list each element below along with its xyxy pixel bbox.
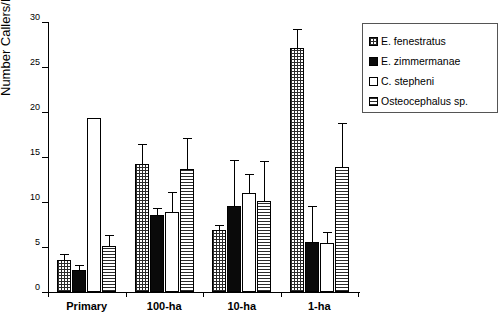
legend-swatch-icon	[369, 37, 378, 46]
error-bar-line	[312, 206, 313, 242]
legend-swatch-icon	[369, 97, 378, 106]
bar	[227, 206, 241, 292]
bar	[102, 246, 116, 292]
bar	[335, 167, 349, 292]
error-bar-cap	[168, 192, 177, 193]
error-bar-cap	[308, 206, 317, 207]
bar	[180, 169, 194, 292]
error-bar-cap	[105, 235, 114, 236]
y-tick-label: 0	[20, 283, 40, 292]
legend-swatch-icon	[369, 57, 378, 66]
bar	[212, 230, 226, 292]
y-tick-label: 25	[20, 58, 40, 67]
legend-item: C. stepheni	[369, 71, 497, 91]
x-tick-mark	[358, 292, 359, 297]
x-tick-mark	[203, 292, 204, 297]
legend-item: E. fenestratus	[369, 31, 497, 51]
legend-item-label: C. stepheni	[381, 76, 434, 87]
bar	[72, 270, 86, 293]
bar	[320, 243, 334, 292]
error-bar-line	[327, 232, 328, 244]
bar	[257, 201, 271, 292]
bar	[87, 118, 101, 292]
error-bar-cap	[75, 265, 84, 266]
legend-swatch-icon	[369, 77, 378, 86]
x-tick-label: 100-ha	[147, 300, 182, 312]
error-bar-line	[142, 144, 143, 164]
y-axis-title: Number Callers/Km	[0, 0, 13, 96]
bar	[165, 212, 179, 292]
bar	[135, 164, 149, 292]
error-bar-cap	[60, 254, 69, 255]
x-tick-label: Primary	[66, 300, 107, 312]
bar-series-container	[48, 22, 358, 292]
plot-area: 051015202530	[48, 22, 358, 292]
legend-item: E. zimmermanae	[369, 51, 497, 71]
x-tick-mark	[281, 292, 282, 297]
bar	[57, 260, 71, 292]
y-tick-label: 5	[20, 238, 40, 247]
chart-legend: E. fenestratusE. zimmermanaeC. stepheniO…	[362, 23, 498, 113]
error-bar-cap	[338, 123, 347, 124]
legend-item-label: E. fenestratus	[381, 36, 446, 47]
error-bar-line	[234, 160, 235, 206]
legend-item: Osteocephalus sp.	[369, 91, 497, 111]
error-bar-line	[297, 29, 298, 48]
x-tick-mark	[48, 292, 49, 297]
error-bar-cap	[245, 174, 254, 175]
error-bar-cap	[183, 138, 192, 139]
error-bar-line	[249, 174, 250, 193]
error-bar-cap	[153, 208, 162, 209]
x-tick-label: 10-ha	[227, 300, 256, 312]
y-tick-label: 20	[20, 103, 40, 112]
y-tick-label: 30	[20, 13, 40, 22]
error-bar-cap	[323, 232, 332, 233]
error-bar-line	[172, 192, 173, 212]
x-axis-line	[48, 292, 360, 293]
legend-item-label: E. zimmermanae	[381, 56, 460, 67]
x-tick-label: 1-ha	[308, 300, 331, 312]
error-bar-cap	[230, 160, 239, 161]
y-tick-label: 15	[20, 148, 40, 157]
bar	[150, 215, 164, 292]
bar	[290, 48, 304, 292]
error-bar-line	[109, 235, 110, 246]
error-bar-cap	[293, 29, 302, 30]
error-bar-line	[187, 138, 188, 169]
legend-item-label: Osteocephalus sp.	[381, 96, 468, 107]
y-tick-label: 10	[20, 193, 40, 202]
error-bar-line	[342, 123, 343, 167]
error-bar-cap	[138, 144, 147, 145]
error-bar-line	[264, 161, 265, 202]
x-tick-mark	[126, 292, 127, 297]
error-bar-cap	[260, 161, 269, 162]
chart-figure: Number Callers/Km 051015202530 Primary10…	[0, 0, 503, 326]
error-bar-cap	[215, 225, 224, 226]
bar	[242, 193, 256, 292]
bar	[305, 242, 319, 292]
